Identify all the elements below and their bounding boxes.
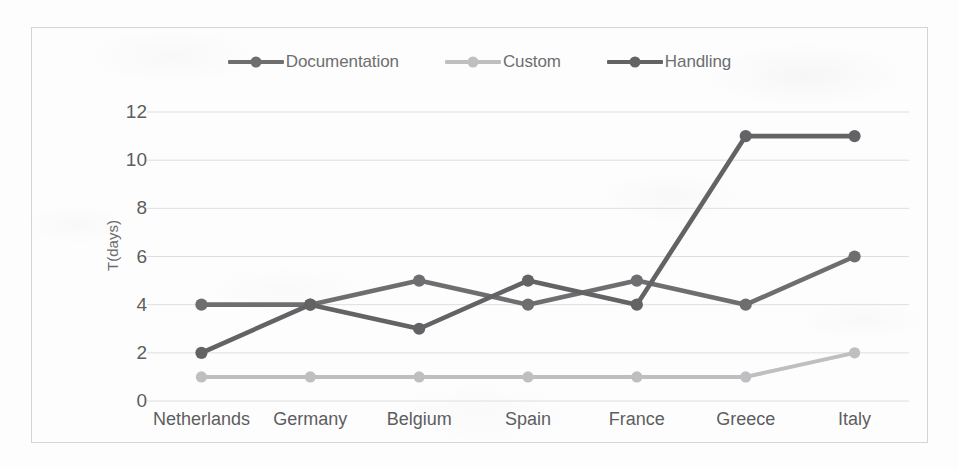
series-handling: [195, 130, 860, 359]
chart-screenshot: Documentation Custom Handling T(days) 12…: [0, 0, 958, 469]
data-point: [740, 371, 751, 382]
data-point: [414, 371, 425, 382]
chart-plot-svg: [31, 27, 928, 443]
data-point: [631, 299, 643, 311]
data-point: [413, 274, 425, 286]
x-axis-tick-labels: NetherlandsGermanyBelgiumSpainFranceGree…: [31, 409, 928, 439]
data-point: [304, 299, 316, 311]
series-line-handling: [201, 136, 854, 353]
x-tick-france: France: [609, 409, 665, 430]
data-point: [849, 347, 860, 358]
x-tick-greece: Greece: [716, 409, 775, 430]
data-point: [848, 250, 860, 262]
data-point: [740, 299, 752, 311]
data-point: [522, 274, 534, 286]
x-tick-spain: Spain: [505, 409, 551, 430]
x-tick-belgium: Belgium: [387, 409, 452, 430]
data-point: [522, 371, 533, 382]
plot-area: T(days) 121086420 NetherlandsGermanyBelg…: [31, 27, 928, 443]
data-point: [740, 130, 752, 142]
data-point: [305, 371, 316, 382]
data-point: [195, 299, 207, 311]
data-point: [196, 371, 207, 382]
x-tick-netherlands: Netherlands: [153, 409, 250, 430]
x-tick-germany: Germany: [273, 409, 347, 430]
data-point: [195, 347, 207, 359]
data-point: [522, 299, 534, 311]
data-point: [631, 274, 643, 286]
data-point: [631, 371, 642, 382]
x-tick-italy: Italy: [838, 409, 871, 430]
data-point: [848, 130, 860, 142]
data-point: [413, 323, 425, 335]
